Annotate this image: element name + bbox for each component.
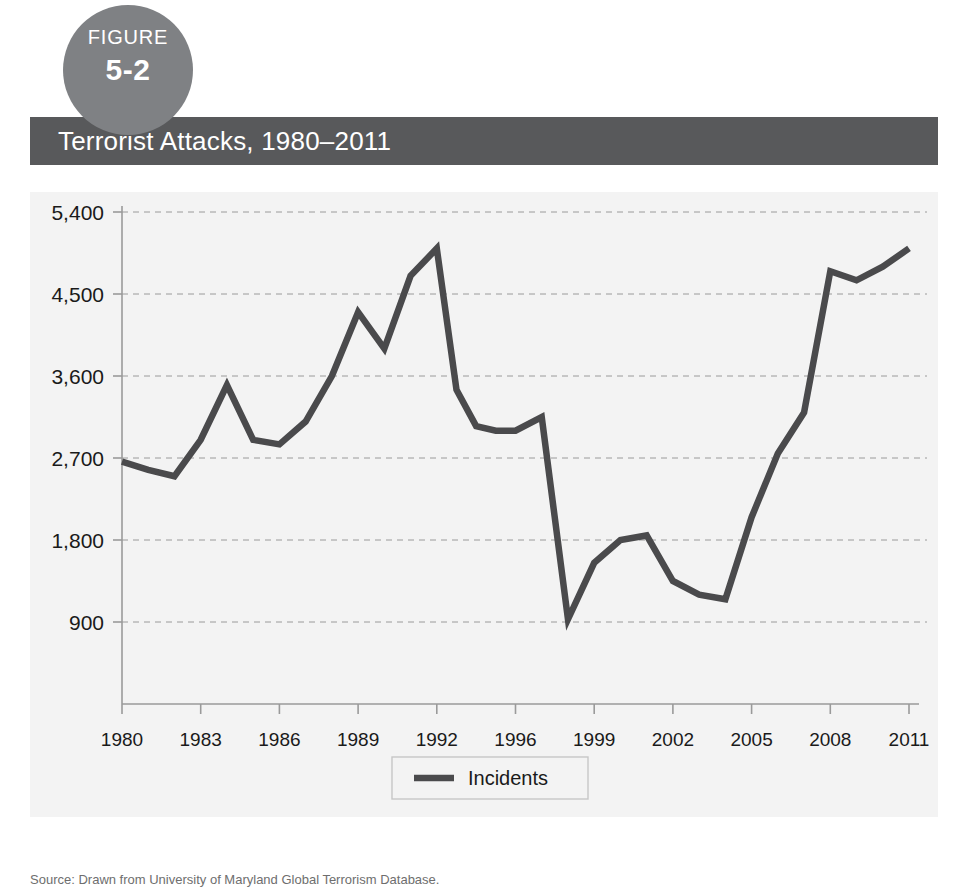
y-tick-label: 2,700: [51, 447, 104, 470]
y-tick-label: 900: [69, 611, 104, 634]
y-tick-label: 4,500: [51, 283, 104, 306]
legend-label: Incidents: [468, 767, 548, 789]
x-tick-label: 1983: [180, 729, 222, 750]
y-axis-tick-labels: 9001,8002,7003,6004,5005,400: [51, 201, 104, 634]
x-tick-label: 1980: [101, 729, 143, 750]
series-line-incidents: [122, 248, 909, 619]
chart-series-group: [122, 248, 909, 619]
x-tick-label: 2008: [809, 729, 851, 750]
chart-legend: Incidents: [392, 757, 588, 799]
x-axis-tick-labels: 1980198319861989199219961999200220052008…: [101, 729, 930, 750]
x-tick-label: 2002: [652, 729, 694, 750]
x-tick-label: 1996: [494, 729, 536, 750]
x-tick-label: 1999: [573, 729, 615, 750]
y-tick-label: 5,400: [51, 201, 104, 224]
line-chart: 9001,8002,7003,6004,5005,400 19801983198…: [30, 192, 938, 817]
figure-label: FIGURE: [88, 27, 168, 47]
chart-axes: [113, 206, 919, 714]
figure-title-bar: Terrorist Attacks, 1980–2011: [30, 117, 938, 165]
x-tick-label: 1986: [258, 729, 300, 750]
source-note: Source: Drawn from University of Marylan…: [30, 872, 940, 887]
source-text: Drawn from University of Maryland Global…: [78, 872, 439, 887]
chart-panel: 9001,8002,7003,6004,5005,400 19801983198…: [30, 192, 938, 817]
x-tick-label: 1992: [416, 729, 458, 750]
figure-badge: FIGURE 5-2: [63, 5, 193, 135]
x-tick-label: 2011: [889, 729, 930, 750]
x-tick-label: 1989: [337, 729, 379, 750]
y-tick-label: 1,800: [51, 529, 104, 552]
source-label: Source:: [30, 872, 75, 887]
figure-number: 5-2: [106, 55, 151, 85]
x-tick-label: 2005: [730, 729, 772, 750]
y-tick-label: 3,600: [51, 365, 104, 388]
